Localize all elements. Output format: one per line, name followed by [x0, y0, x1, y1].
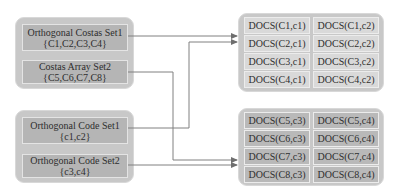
docs-cell: DOCS(C5,c3) [244, 112, 310, 129]
orthogonal-code-set1-node: Orthogonal Code Set1 {c1,c2} [22, 117, 128, 144]
docs-cell: DOCS(C2,c2) [313, 35, 379, 52]
docs-cell: DOCS(C5,c4) [313, 112, 379, 129]
node-title: Orthogonal Code Set2 [23, 155, 127, 166]
docs-cell: DOCS(C6,c4) [313, 130, 379, 147]
node-members: {c3,c4} [23, 166, 127, 177]
docs-cell: DOCS(C3,c2) [313, 53, 379, 70]
docs-cell: DOCS(C8,c4) [313, 166, 379, 183]
node-title: Costas Array Set2 [23, 61, 127, 72]
docs-cell: DOCS(C7,c3) [244, 148, 310, 165]
docs-cell: DOCS(C4,c1) [244, 71, 310, 88]
node-title: Orthogonal Costas Set1 [23, 27, 127, 38]
connector-costas-set2 [128, 72, 237, 160]
node-members: {C5,C6,C7,C8} [23, 72, 127, 83]
docs-cell: DOCS(C1,c1) [244, 17, 310, 34]
docs-cell: DOCS(C3,c1) [244, 53, 310, 70]
node-members: {C1,C2,C3,C4} [23, 38, 127, 49]
docs-cell: DOCS(C1,c2) [313, 17, 379, 34]
orthogonal-code-set2-node: Orthogonal Code Set2 {c3,c4} [22, 154, 128, 178]
docs-cell: DOCS(C2,c1) [244, 35, 310, 52]
docs-cell: DOCS(C7,c4) [313, 148, 379, 165]
connector-code-set1 [128, 42, 237, 128]
node-members: {c1,c2} [23, 131, 127, 142]
docs-cell: DOCS(C8,c3) [244, 166, 310, 183]
docs-cell: DOCS(C6,c3) [244, 130, 310, 147]
orthogonal-costas-set1-node: Orthogonal Costas Set1 {C1,C2,C3,C4} [22, 24, 128, 51]
costas-array-set2-node: Costas Array Set2 {C5,C6,C7,C8} [22, 60, 128, 84]
node-title: Orthogonal Code Set1 [23, 120, 127, 131]
docs-cell: DOCS(C4,c2) [313, 71, 379, 88]
